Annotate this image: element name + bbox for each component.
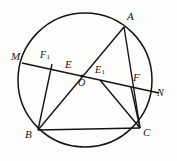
geometry-figure: A B C M N O E E1 F F1 — [0, 0, 177, 161]
point-label-B: B — [25, 129, 32, 140]
point-label-F1: F1 — [40, 50, 50, 61]
point-label-A: A — [127, 11, 134, 22]
segment-B-C — [38, 128, 140, 130]
point-label-M: M — [11, 51, 20, 62]
subscript-1: 1 — [101, 68, 105, 76]
point-label-N: N — [157, 88, 164, 98]
point-label-C: C — [143, 127, 150, 138]
point-label-F: F — [133, 72, 140, 83]
segment-F1-B — [38, 64, 52, 130]
point-label-O: O — [78, 78, 85, 88]
subscript-1: 1 — [46, 53, 50, 61]
point-label-E1: E1 — [95, 65, 105, 76]
point-label-E: E — [65, 59, 72, 70]
